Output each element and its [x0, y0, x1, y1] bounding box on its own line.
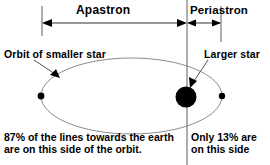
arrow-right-icon: [177, 19, 187, 27]
arrow-left-icon: [187, 20, 196, 27]
filled-circle-icon: [176, 87, 197, 108]
orbit-diagram: Apastron Periastron Orbit of smaller sta…: [0, 0, 270, 165]
apastron-caption: 87% of the lines towards the earth are o…: [4, 131, 184, 155]
arrow-left-icon: [42, 19, 52, 27]
apastron-label: Apastron: [76, 4, 130, 18]
periastron-caption: Only 13% are on this side: [191, 131, 270, 155]
arrow-right-icon: [212, 20, 221, 27]
small-dot-icon: [38, 93, 45, 100]
periastron-caption-line-1: Only 13% are: [191, 131, 270, 143]
periastron-label: Periastron: [190, 4, 248, 17]
small-dot-icon: [219, 93, 225, 99]
apastron-caption-line-1: 87% of the lines towards the earth: [4, 131, 184, 143]
periastron-caption-line-2: on this side: [191, 143, 270, 155]
apastron-caption-line-2: are on this side of the orbit.: [4, 143, 184, 155]
larger-star-label: Larger star: [204, 48, 260, 60]
orbit-of-smaller-star-label: Orbit of smaller star: [4, 48, 106, 60]
